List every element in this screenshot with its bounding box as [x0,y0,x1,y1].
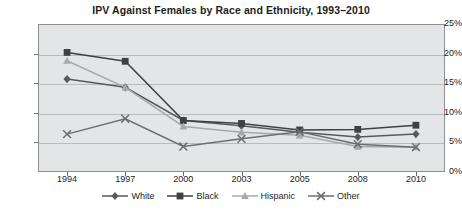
triangle-marker [63,57,71,64]
x-axis-tick-mark [183,172,184,176]
y-axis-tick-label: 5% [428,136,462,146]
legend-label: Other [337,191,360,201]
legend-item-other[interactable]: Other [308,190,360,202]
y-axis-tick-label: 15% [428,77,462,87]
x-axis-tick-mark [67,172,68,176]
x-axis-tick-mark [358,172,359,176]
y-axis-tick-label: 10% [428,107,462,117]
x-axis-tick-mark [125,172,126,176]
y-axis-tick-mark [34,83,38,84]
chart-legend: WhiteBlackHispanicOther [0,190,462,202]
y-axis-tick-label: 20% [428,48,462,58]
square-marker [177,193,184,200]
y-axis-tick-mark [34,142,38,143]
square-marker [354,126,361,133]
diamond-marker [112,192,119,200]
legend-swatch-triangle-icon [232,190,258,202]
y-axis-tick-mark [34,113,38,114]
square-marker [122,58,129,65]
legend-item-black[interactable]: Black [167,190,218,202]
legend-swatch-cross-icon [308,190,334,202]
chart-title: IPV Against Females by Race and Ethnicit… [0,4,462,16]
legend-item-white[interactable]: White [102,190,154,202]
legend-label: White [131,191,154,201]
x-axis-tick-mark [300,172,301,176]
x-axis-tick-mark [416,172,417,176]
square-marker [238,120,245,127]
chart-container: IPV Against Females by Race and Ethnicit… [0,0,462,210]
diamond-marker [354,133,361,141]
diamond-marker [63,75,70,83]
square-marker [64,49,71,56]
series-line-black [67,52,416,130]
legend-label: Hispanic [261,191,296,201]
legend-swatch-square-icon [167,190,193,202]
series-layer [38,24,445,172]
diamond-marker [412,130,419,138]
legend-item-hispanic[interactable]: Hispanic [232,190,296,202]
legend-label: Black [196,191,218,201]
square-marker [413,122,420,129]
x-axis-tick-mark [242,172,243,176]
y-axis-tick-label: 25% [428,18,462,28]
y-axis-tick-mark [34,54,38,55]
legend-swatch-diamond-icon [102,190,128,202]
